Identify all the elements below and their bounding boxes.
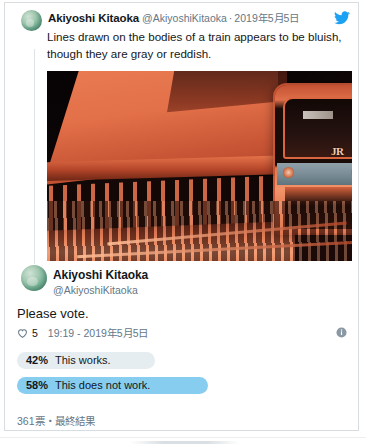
screenshot-root: Akiyoshi Kitaoka@AkiyoshiKitaoka·2019年5月… [0, 0, 366, 448]
avatar[interactable] [21, 10, 42, 31]
avatar[interactable] [21, 265, 47, 291]
thread-connector-line [34, 49, 35, 264]
tweet-card: Akiyoshi Kitaoka@AkiyoshiKitaoka·2019年5月… [4, 2, 359, 431]
poll: 42%This works. 58%This does not work. [17, 352, 346, 402]
tweet-stats-row: 5 19:19 - 2019年5月5日 [17, 327, 149, 339]
tweet-body-text: Lines drawn on the bodies of a train app… [47, 29, 343, 62]
info-icon[interactable] [336, 327, 347, 338]
poll-option-1-percent: 58% [26, 379, 48, 391]
user-handle[interactable]: @AkiyoshiKitaoka [53, 284, 138, 296]
poll-footer: 361票・最終結果 [17, 413, 95, 428]
poll-option-1[interactable]: 58%This does not work. [17, 377, 346, 394]
page-divider [0, 437, 366, 438]
display-name[interactable]: Akiyoshi Kitaoka [53, 268, 148, 282]
poll-option-0-percent: 42% [26, 354, 48, 366]
page-artifact [130, 441, 240, 444]
tweet-body-text: Please vote. [17, 306, 89, 322]
display-name[interactable]: Akiyoshi Kitaoka [48, 12, 139, 24]
tweet-header: Akiyoshi Kitaoka@AkiyoshiKitaoka·2019年5月… [48, 10, 324, 25]
user-handle[interactable]: @AkiyoshiKitaoka [142, 12, 227, 24]
meta-separator: · [229, 12, 233, 24]
jr-logo: JR [331, 145, 343, 157]
poll-option-1-text: This does not work. [55, 379, 150, 391]
tweet-timestamp[interactable]: 19:19 - 2019年5月5日 [48, 327, 149, 339]
poll-option-1-label: 58%This does not work. [26, 377, 150, 394]
tweet-media-photo[interactable]: JR [47, 71, 352, 261]
poll-option-0-label: 42%This works. [26, 352, 111, 369]
heart-icon[interactable] [17, 328, 28, 339]
train-photo-image: JR [47, 71, 352, 261]
poll-option-0-text: This works. [55, 354, 111, 366]
twitter-bird-icon[interactable] [334, 11, 350, 25]
poll-option-0[interactable]: 42%This works. [17, 352, 346, 369]
like-count: 5 [32, 327, 38, 339]
tweet-date[interactable]: 2019年5月5日 [234, 12, 299, 24]
